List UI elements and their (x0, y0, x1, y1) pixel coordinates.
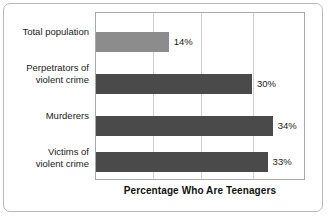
bar-value-victims: 33% (268, 152, 292, 172)
category-label-line: Murderers (0, 110, 89, 122)
bar-murderers (96, 116, 273, 136)
bar-value-perpetrators: 30% (252, 74, 276, 94)
category-label-line: violent crime (0, 74, 89, 86)
bar-value-total-population: 14% (169, 32, 193, 52)
category-label-line: Perpetrators of (0, 62, 89, 74)
plot-area: 14% 30% 34% 33% (95, 12, 305, 180)
bar-victims (96, 152, 268, 172)
bar-row: 33% (96, 141, 304, 183)
category-label-murderers: Murderers (0, 110, 89, 122)
bar-perpetrators (96, 74, 252, 94)
bar-row: 30% (96, 63, 304, 105)
bar-row: 14% (96, 21, 304, 63)
x-axis-title: Percentage Who Are Teenagers (95, 185, 305, 196)
category-label-total-population: Total population (0, 26, 89, 38)
category-label-line: Total population (0, 26, 89, 38)
bar-chart-figure: Total population Perpetrators of violent… (0, 0, 327, 216)
bar-value-murderers: 34% (273, 116, 297, 136)
bar-total-population (96, 32, 169, 52)
category-label-line: violent crime (0, 158, 89, 170)
category-label-perpetrators: Perpetrators of violent crime (0, 62, 89, 85)
category-label-victims: Victims of violent crime (0, 146, 89, 169)
category-label-line: Victims of (0, 146, 89, 158)
